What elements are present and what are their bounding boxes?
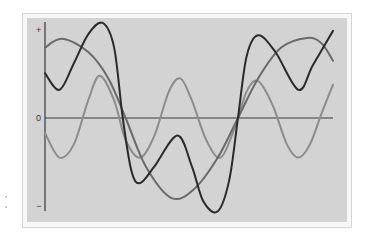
line-chart: + 0 −	[0, 0, 369, 238]
y-tick-label-zero: 0	[36, 113, 41, 123]
y-tick-label-plus: +	[36, 25, 41, 35]
y-tick-label-minus: −	[36, 201, 41, 211]
series-line-curve-light	[45, 76, 333, 158]
